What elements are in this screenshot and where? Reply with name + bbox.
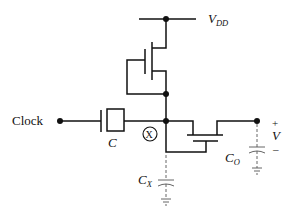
output-voltage-label: V: [272, 128, 282, 143]
clock-label: Clock: [12, 113, 44, 128]
co-capacitor: [249, 124, 265, 174]
coupling-capacitor: [101, 109, 166, 132]
transistor-m2: [166, 121, 257, 152]
transistor-m1: [127, 19, 166, 121]
cx-capacitor: [158, 155, 174, 205]
node-x-label: X: [146, 129, 154, 140]
minus-sign: –: [272, 143, 279, 155]
coupling-cap-label: C: [108, 135, 117, 150]
vdd-label: VDD: [208, 11, 229, 28]
m1-source-node: [163, 91, 169, 97]
cx-label: CX: [138, 172, 153, 189]
co-label: CO: [225, 150, 240, 167]
circuit-diagram: VDD Clock C X + V –: [0, 0, 296, 210]
output-node: [254, 118, 260, 124]
